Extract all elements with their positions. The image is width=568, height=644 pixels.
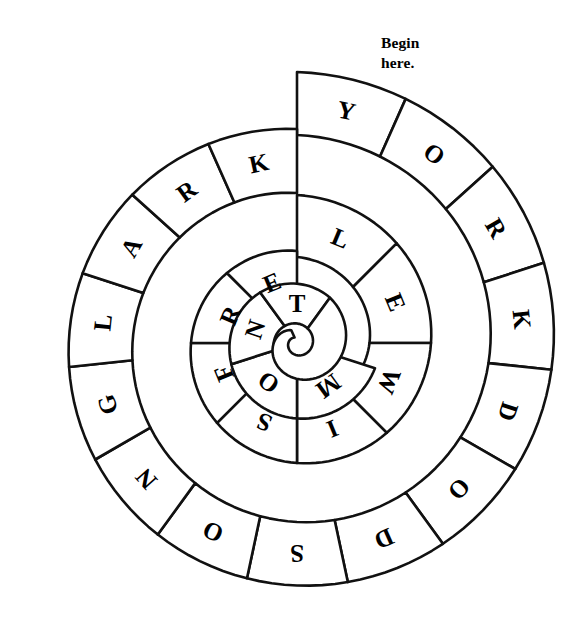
spiral-cells-group xyxy=(69,72,554,586)
spiral-letter: L xyxy=(88,313,117,332)
spiral-letter: T xyxy=(289,290,306,317)
spiral-puzzle: YORKDODSONGLARKLEWISFREMONT Begin here. xyxy=(0,0,568,644)
spiral-diagram: YORKDODSONGLARKLEWISFREMONT xyxy=(0,0,568,644)
begin-here-label: Begin here. xyxy=(381,33,419,73)
spiral-letter: K xyxy=(507,308,536,331)
spiral-letter: S xyxy=(290,540,304,567)
